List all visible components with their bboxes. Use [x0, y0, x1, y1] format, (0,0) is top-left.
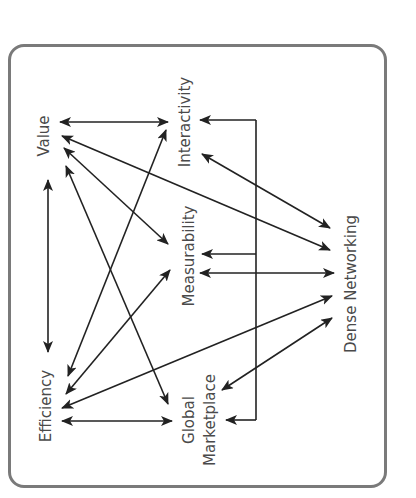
arrow-efficiency-interactivity: [68, 130, 166, 376]
arrow-global-marketplace-dense-networking: [222, 318, 332, 390]
node-interactivity: Interactivity: [177, 77, 194, 168]
node-efficiency: Efficiency: [38, 370, 55, 442]
arrow-efficiency-dense-networking: [62, 296, 332, 408]
arrow-value-global-marketplace: [66, 166, 168, 404]
node-dense-networking: Dense Networking: [343, 215, 360, 353]
concept-diagram: Value Interactivity Measurability Dense …: [0, 0, 416, 498]
node-measurability: Measurability: [181, 206, 198, 307]
node-value: Value: [36, 115, 53, 156]
node-global-marketplace-line2: Marketplace: [202, 374, 219, 466]
arrow-interactivity-dense-networking: [202, 154, 330, 228]
node-global-marketplace-line1: Global: [181, 396, 198, 444]
